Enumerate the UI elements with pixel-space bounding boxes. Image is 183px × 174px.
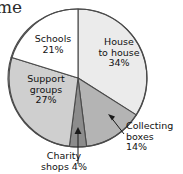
slice-label-schools-name: Schools [26,34,80,45]
slice-label-support-groups: Support groups 27% [16,74,76,106]
pie-chart-figure: me Schools 21% House to house 34% Suppor… [0,0,183,174]
slice-label-schools-value: 21% [26,45,80,56]
slice-label-house-to-house-name1: House [90,37,148,48]
slice-label-support-groups-name1: Support [16,74,76,85]
slice-label-charity-shops: Charity shops 4% [23,151,105,172]
slice-label-collecting-boxes-value: 14% [126,142,183,153]
slice-label-house-to-house-value: 34% [90,58,148,69]
slice-label-schools: Schools 21% [26,34,80,55]
slice-label-charity-shops-name: Charity [23,151,105,162]
slice-label-collecting-boxes: Collecting boxes 14% [126,121,183,153]
slice-label-support-groups-value: 27% [16,95,76,106]
slice-label-collecting-boxes-name1: Collecting [126,121,183,132]
slice-label-house-to-house: House to house 34% [90,37,148,69]
slice-label-charity-shops-value: shops 4% [23,162,105,173]
